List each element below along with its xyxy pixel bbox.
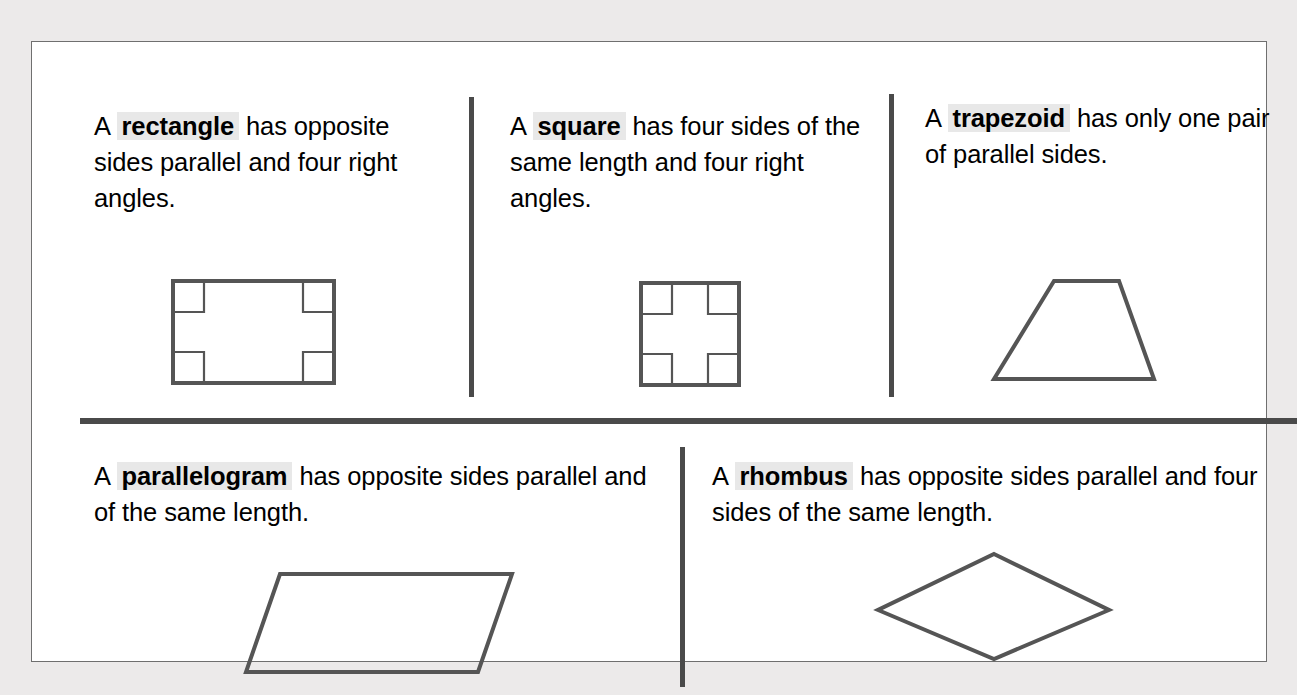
right-angle-marker-bottom-right — [303, 352, 334, 383]
definition-lead-rectangle: A — [94, 112, 110, 140]
definition-lead-square: A — [510, 112, 526, 140]
definition-text-trapezoid: A trapezoid has only one pair of paralle… — [925, 100, 1275, 172]
vertical-divider-1 — [469, 97, 474, 397]
definition-term-trapezoid: trapezoid — [948, 104, 1070, 132]
vertical-divider-2 — [889, 94, 894, 397]
trapezoid-shape — [982, 270, 1172, 395]
rectangle-shape — [162, 270, 352, 395]
vertical-divider-3 — [680, 447, 685, 687]
right-angle-marker-bottom-left — [173, 352, 204, 383]
definition-text-square: A square has four sides of the same leng… — [510, 108, 880, 216]
right-angle-marker-top-right — [708, 283, 739, 314]
right-angle-marker-top-left — [173, 281, 204, 312]
right-angle-marker-top-right — [303, 281, 334, 312]
definition-text-parallelogram: A parallelogram has opposite sides paral… — [94, 458, 669, 530]
square-shape — [630, 272, 755, 397]
right-angle-marker-bottom-left — [641, 354, 672, 385]
rhombus-shape — [867, 542, 1122, 672]
definition-lead-rhombus: A — [712, 462, 728, 490]
definition-lead-trapezoid: A — [925, 104, 941, 132]
definition-text-rhombus: A rhombus has opposite sides parallel an… — [712, 458, 1287, 530]
quadrilaterals-chart-panel: A rectangle has opposite sides parallel … — [31, 41, 1267, 662]
definition-term-rectangle: rectangle — [117, 112, 239, 140]
definition-term-square: square — [533, 112, 626, 140]
definition-lead-parallelogram: A — [94, 462, 110, 490]
definition-text-rectangle: A rectangle has opposite sides parallel … — [94, 108, 454, 216]
parallelogram-shape — [235, 562, 525, 687]
definition-term-parallelogram: parallelogram — [117, 462, 293, 490]
right-angle-marker-bottom-right — [708, 354, 739, 385]
definition-term-rhombus: rhombus — [735, 462, 853, 490]
right-angle-marker-top-left — [641, 283, 672, 314]
horizontal-divider — [80, 418, 1297, 424]
